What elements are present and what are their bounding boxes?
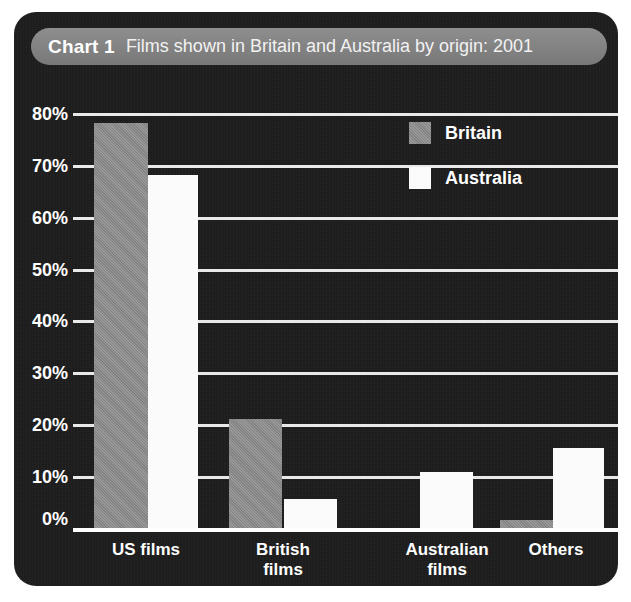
ytick-label-70: 70% bbox=[16, 156, 68, 177]
chart-panel: 80% 70% 60% 50% 40% 30% 20% 10% 0% US fi… bbox=[14, 12, 618, 586]
ytick-mark-20 bbox=[73, 424, 91, 427]
legend-item-britain[interactable]: Britain bbox=[409, 122, 522, 144]
ytick-mark-40 bbox=[73, 320, 91, 323]
ytick-label-0: 0% bbox=[16, 509, 68, 530]
bar-others-australia[interactable] bbox=[553, 448, 604, 528]
ytick-label-30: 30% bbox=[16, 363, 68, 384]
chart-legend: Britain Australia bbox=[409, 122, 522, 212]
gridline-70 bbox=[91, 165, 618, 168]
ytick-mark-50 bbox=[73, 269, 91, 272]
ytick-label-80: 80% bbox=[16, 104, 68, 125]
legend-swatch-australia-icon bbox=[409, 167, 431, 189]
bar-others-britain[interactable] bbox=[500, 520, 553, 528]
ytick-mark-10 bbox=[73, 476, 91, 479]
chart-number-label: Chart 1 bbox=[48, 36, 115, 58]
bar-british-films-australia[interactable] bbox=[284, 499, 337, 528]
gridline-80 bbox=[91, 113, 618, 116]
ytick-label-50: 50% bbox=[16, 260, 68, 281]
xtick-label-british-films: British films bbox=[219, 540, 347, 580]
ytick-mark-80 bbox=[73, 113, 91, 116]
ytick-label-20: 20% bbox=[16, 415, 68, 436]
bar-us-films-australia[interactable] bbox=[148, 175, 198, 528]
bar-us-films-britain[interactable] bbox=[94, 123, 148, 528]
xtick-label-others: Others bbox=[492, 540, 618, 560]
ytick-label-40: 40% bbox=[16, 311, 68, 332]
legend-label-australia: Australia bbox=[445, 168, 522, 189]
ytick-mark-60 bbox=[73, 217, 91, 220]
bar-australian-films-australia[interactable] bbox=[420, 472, 473, 528]
legend-label-britain: Britain bbox=[445, 123, 502, 144]
plot-area: 80% 70% 60% 50% 40% 30% 20% 10% 0% US fi… bbox=[14, 12, 618, 586]
ytick-mark-70 bbox=[73, 165, 91, 168]
legend-item-australia[interactable]: Australia bbox=[409, 167, 522, 189]
ytick-label-60: 60% bbox=[16, 208, 68, 229]
axis-baseline bbox=[73, 528, 618, 532]
chart-title-bar: Chart 1 Films shown in Britain and Austr… bbox=[31, 28, 607, 65]
ytick-mark-30 bbox=[73, 372, 91, 375]
bar-british-films-britain[interactable] bbox=[229, 419, 282, 528]
chart-title-text: Films shown in Britain and Australia by … bbox=[126, 36, 533, 57]
legend-swatch-britain-icon bbox=[409, 122, 431, 144]
xtick-label-us-films: US films bbox=[82, 540, 210, 560]
ytick-label-10: 10% bbox=[16, 467, 68, 488]
